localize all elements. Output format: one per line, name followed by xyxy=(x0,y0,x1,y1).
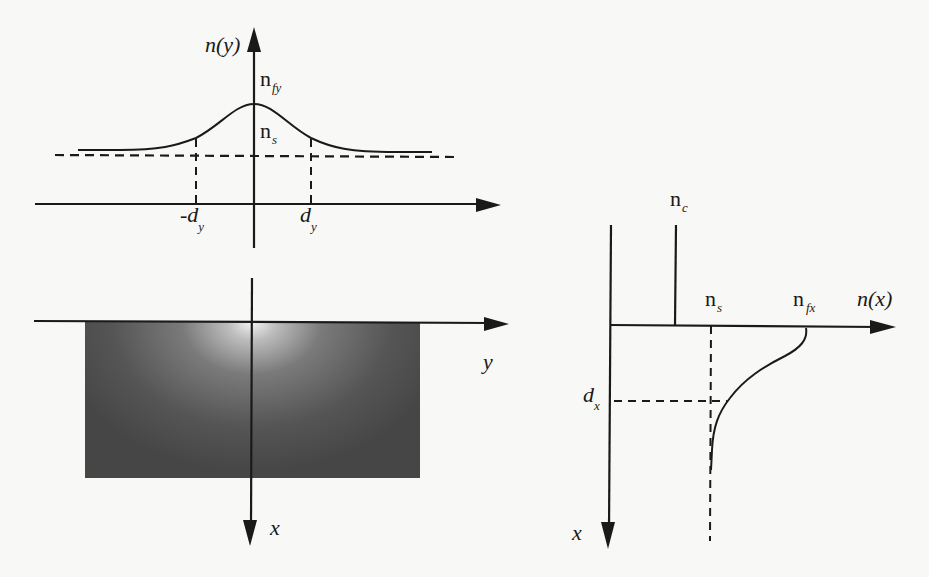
ns-level-dashed-line xyxy=(55,155,458,157)
y-axis-arrow-icon xyxy=(484,317,509,331)
ns-depth-label-main: n xyxy=(705,286,716,311)
nfy-label: nfy xyxy=(260,66,282,95)
x-axis-arrow-icon xyxy=(243,520,257,546)
depth-x-axis-label: x xyxy=(571,520,582,545)
nc-label-main: n xyxy=(670,186,681,211)
y-axis-label: y xyxy=(481,349,493,374)
nc-level-line xyxy=(675,225,676,326)
diagram-svg: n(y) nfy ns -dy dy y x xyxy=(0,0,929,577)
depth-index-profile: nc ns nfx n(x) dx x xyxy=(571,186,896,549)
minus-dy-label-sub: y xyxy=(196,219,204,234)
minus-dy-label-main: -d xyxy=(180,202,199,227)
nx-axis-label: n(x) xyxy=(857,286,892,311)
nc-label: nc xyxy=(670,186,688,215)
dx-label-sub: x xyxy=(593,398,600,413)
nfx-label-sub: fx xyxy=(806,300,816,315)
nfy-label-main: n xyxy=(260,66,271,91)
ny-axis-arrow-icon xyxy=(247,27,261,52)
y-axis-top-arrow-icon xyxy=(476,198,501,212)
waveguide-cross-section: y x xyxy=(34,278,509,546)
ns-top-label-main: n xyxy=(260,118,271,143)
x-axis-line xyxy=(251,278,252,528)
nx-axis-line xyxy=(610,325,880,327)
ny-axis-label: n(y) xyxy=(205,32,240,57)
depth-x-axis-arrow-icon xyxy=(601,522,615,549)
nfy-label-sub: fy xyxy=(272,80,282,95)
diagram-canvas: n(y) nfy ns -dy dy y x xyxy=(0,0,929,577)
dx-label: dx xyxy=(583,382,600,413)
ns-top-label: ns xyxy=(260,118,277,147)
top-index-profile: n(y) nfy ns -dy dy xyxy=(35,27,501,248)
x-axis-label: x xyxy=(269,515,280,540)
dy-label-sub: y xyxy=(309,219,317,234)
ns-depth-label-sub: s xyxy=(717,300,722,315)
nfx-label: nfx xyxy=(793,286,816,315)
ns-depth-dashed-line xyxy=(710,326,711,541)
depth-x-axis-line xyxy=(609,225,611,530)
nx-profile-curve xyxy=(711,328,806,470)
ns-top-label-sub: s xyxy=(272,132,277,147)
ns-depth-label: ns xyxy=(705,286,722,315)
dy-label: dy xyxy=(300,202,317,234)
nx-axis-arrow-icon xyxy=(870,320,896,334)
nfx-label-main: n xyxy=(793,286,804,311)
nc-label-sub: c xyxy=(682,200,688,215)
minus-dy-label: -dy xyxy=(180,202,204,234)
